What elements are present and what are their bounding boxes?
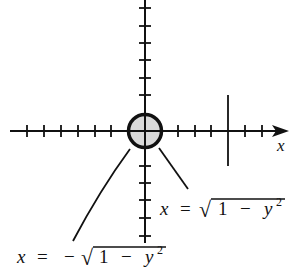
label-left-exponent: 2	[157, 243, 163, 257]
label-right-exponent: 2	[276, 195, 282, 209]
label-left-neg: −	[64, 246, 75, 267]
unit-circle-diagram: x x = √	[0, 0, 298, 274]
label-left-lhs: x	[16, 246, 26, 267]
label-right-minus: −	[240, 198, 251, 219]
leader-line-left	[73, 149, 130, 241]
label-left-one: 1	[99, 246, 109, 267]
leader-line-right	[159, 148, 188, 189]
sqrt-icon: √	[199, 197, 212, 222]
sqrt-icon: √	[81, 245, 94, 270]
label-right-y: y	[262, 198, 273, 219]
label-right-branch: x = √ 1 − y 2	[159, 195, 285, 222]
label-left-eq: =	[37, 246, 48, 267]
label-left-branch: x = − √ 1 − y 2	[16, 243, 166, 270]
label-left-minus: −	[121, 246, 132, 267]
label-right-lhs: x	[159, 198, 169, 219]
label-right-one: 1	[218, 198, 228, 219]
label-right-eq: =	[180, 198, 191, 219]
label-left-y: y	[143, 246, 154, 267]
x-axis-label: x	[276, 136, 285, 155]
